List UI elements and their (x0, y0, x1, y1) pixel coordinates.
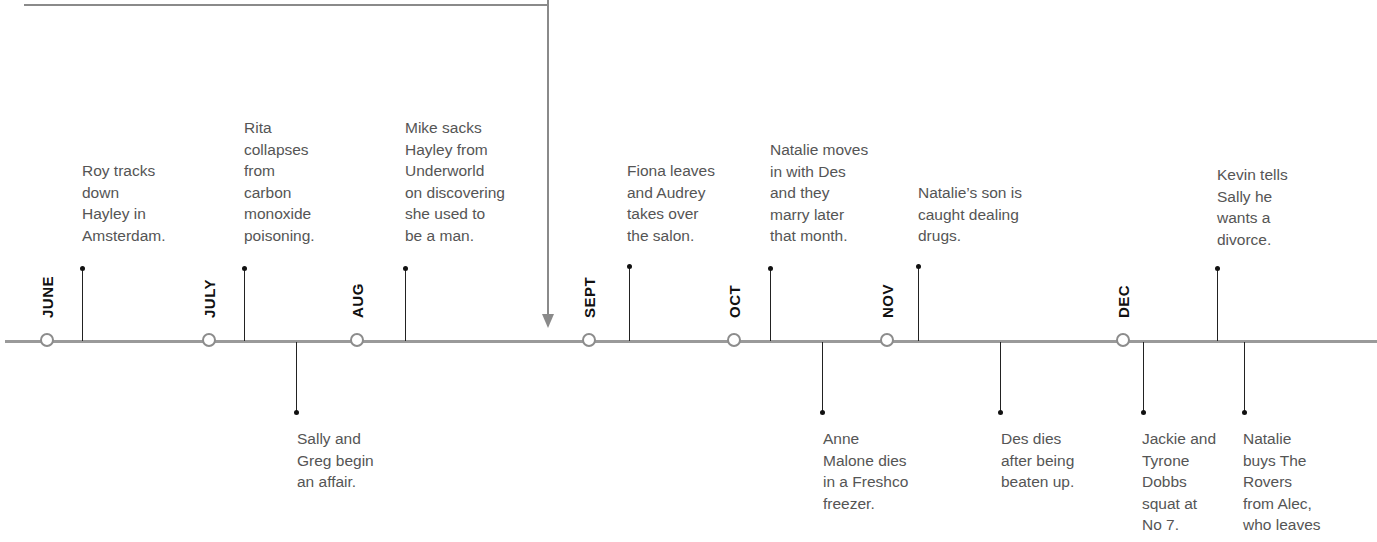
pin-dot-icon (627, 264, 632, 269)
event-text: Roy tracks down Hayley in Amsterdam. (82, 160, 166, 246)
connector-frame-top (24, 0, 548, 6)
pin-dot-icon (403, 266, 408, 271)
event-text: Jackie and Tyrone Dobbs squat at No 7. (1142, 428, 1216, 536)
month-node (202, 333, 216, 347)
month-label: NOV (879, 284, 896, 318)
month-label: OCT (726, 285, 743, 318)
event-text: Natalie’s son is caught dealing drugs. (918, 182, 1022, 247)
event-text: Natalie buys The Rovers from Alec, who l… (1243, 428, 1321, 536)
pin-dot-icon (1242, 410, 1247, 415)
connector-frame-right (547, 0, 549, 316)
pin-dot-icon (294, 410, 299, 415)
month-label: SEPT (581, 277, 598, 318)
month-label: DEC (1115, 285, 1132, 318)
month-node (40, 333, 54, 347)
month-label: AUG (349, 283, 366, 318)
down-arrow-icon (542, 314, 554, 328)
pin-dot-icon (1141, 410, 1146, 415)
pin-dot-icon (916, 264, 921, 269)
event-text: Kevin tells Sally he wants a divorce. (1217, 164, 1288, 250)
month-node (1116, 333, 1130, 347)
pin-dot-icon (242, 266, 247, 271)
month-node (350, 333, 364, 347)
event-text: Fiona leaves and Audrey takes over the s… (627, 160, 715, 246)
month-node (582, 333, 596, 347)
month-node (880, 333, 894, 347)
event-text: Des dies after being beaten up. (1001, 428, 1074, 493)
pin-dot-icon (998, 410, 1003, 415)
month-label: JULY (201, 279, 218, 318)
event-text: Sally and Greg begin an affair. (297, 428, 374, 493)
event-text: Mike sacks Hayley from Underworld on dis… (405, 117, 505, 246)
month-label: JUNE (39, 276, 56, 318)
pin-dot-icon (80, 266, 85, 271)
event-text: Natalie moves in with Des and they marry… (770, 139, 868, 247)
event-text: Anne Malone dies in a Freshco freezer. (823, 428, 908, 514)
month-node (727, 333, 741, 347)
event-text: Rita collapses from carbon monoxide pois… (244, 117, 315, 246)
pin-dot-icon (1215, 266, 1220, 271)
pin-dot-icon (820, 410, 825, 415)
pin-dot-icon (768, 266, 773, 271)
